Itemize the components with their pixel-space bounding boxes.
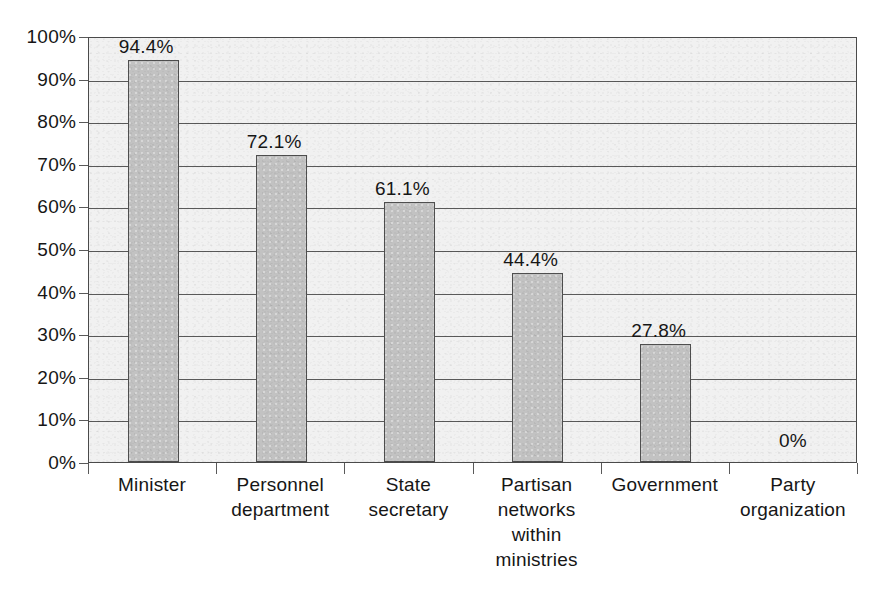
y-axis-tick-label: 70% [37,154,76,176]
y-axis-tick-label: 100% [27,26,76,48]
gridline [89,123,856,124]
y-axis-tick-label: 30% [37,324,76,346]
x-axis-category-label: Minister [88,472,216,497]
gridline [89,294,856,295]
y-axis-tick-label: 60% [37,196,76,218]
bar [640,344,691,462]
x-axis-category-label: Partisannetworkswithinministries [473,472,601,572]
y-axis-tick-label: 40% [37,282,76,304]
y-axis-tick-mark [79,207,88,208]
bar-value-label: 72.1% [214,131,334,153]
y-axis-tick-mark [79,122,88,123]
x-axis-category-label-line: within [473,522,601,547]
x-axis-category-label: Personneldepartment [216,472,344,522]
y-axis-tick-mark [79,293,88,294]
x-axis-category-label-line: Personnel [216,472,344,497]
x-axis-category-label-line: networks [473,497,601,522]
gridline [89,421,856,422]
x-axis-category-label-line: ministries [473,547,601,572]
x-axis-category-label-line: Government [601,472,729,497]
x-axis-category-label-line: department [216,497,344,522]
x-axis-category-label-line: Party [729,472,857,497]
bar-value-label: 61.1% [342,178,462,200]
y-axis-tick-label: 90% [37,69,76,91]
x-axis-category-label-line: secretary [344,497,472,522]
y-axis-tick-mark [79,165,88,166]
y-axis-tick-mark [79,463,88,464]
y-axis-tick-mark [79,80,88,81]
y-axis-tick-mark [79,420,88,421]
x-axis-category-label-line: organization [729,497,857,522]
y-axis-tick-label: 20% [37,367,76,389]
x-axis-category-label-line: Minister [88,472,216,497]
gridline [89,166,856,167]
bar-value-label: 27.8% [599,320,719,342]
x-axis-category-label: Partyorganization [729,472,857,522]
y-axis-tick-label: 80% [37,111,76,133]
bar [384,202,435,462]
bar-value-label: 0% [733,430,853,452]
y-axis-tick-mark [79,378,88,379]
gridline [89,81,856,82]
gridline [89,379,856,380]
x-axis-category-label: Government [601,472,729,497]
y-axis-tick-mark [79,335,88,336]
bar-value-label: 94.4% [86,36,206,58]
bar-value-label: 44.4% [471,249,591,271]
x-axis-category-label-line: Partisan [473,472,601,497]
bar [512,273,563,462]
gridline [89,336,856,337]
bar [128,60,179,462]
y-axis-tick-label: 10% [37,409,76,431]
x-axis-category-label-line: State [344,472,472,497]
bar-chart-figure: 0%10%20%30%40%50%60%70%80%90%100% 94.4%7… [0,0,890,601]
y-axis-tick-label: 0% [48,452,76,474]
y-axis-tick-mark [79,250,88,251]
x-axis-category-label: Statesecretary [344,472,472,522]
bar [256,155,307,462]
y-axis-tick-label: 50% [37,239,76,261]
gridline [89,208,856,209]
x-axis-tick-mark [857,463,858,474]
